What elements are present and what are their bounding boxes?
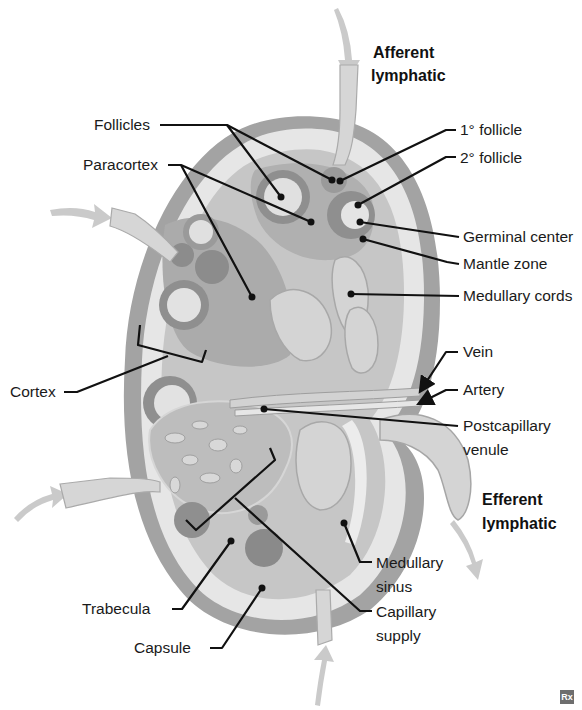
label-capillary-supply-2: supply	[376, 627, 421, 644]
label-medullary-sinus: Medullary	[376, 554, 443, 571]
label-postcapillary-venule-2: venule	[463, 441, 509, 458]
afferent-lymphatic-bottom	[316, 590, 332, 645]
arrow-bottom-icon	[314, 645, 334, 706]
arrow-left-lower-icon	[14, 486, 68, 522]
label-afferent-lymphatic-2: lymphatic	[371, 67, 446, 84]
label-capsule: Capsule	[134, 639, 191, 656]
label-vein: Vein	[463, 343, 493, 360]
label-efferent-lymphatic: Efferent	[482, 491, 543, 508]
medullary-cord-lower	[296, 422, 351, 510]
label-cortex: Cortex	[10, 383, 56, 400]
label-afferent-lymphatic: Afferent	[373, 44, 435, 61]
lymph-node-diagram: Afferent lymphatic Follicles Paracortex …	[0, 0, 582, 710]
arrow-efferent-icon	[450, 520, 483, 580]
label-trabecula: Trabecula	[82, 600, 151, 617]
label-follicles: Follicles	[94, 116, 150, 133]
label-medullary-cords: Medullary cords	[463, 287, 573, 304]
arrow-left-upper-icon	[50, 204, 112, 228]
label-capillary-supply: Capillary	[376, 603, 437, 620]
rx-badge-icon: Rx	[560, 690, 574, 704]
label-paracortex: Paracortex	[83, 156, 158, 173]
label-germinal-center: Germinal center	[463, 228, 573, 245]
label-medullary-sinus-2: sinus	[376, 578, 412, 595]
label-artery: Artery	[463, 381, 505, 398]
label-secondary-follicle: 2° follicle	[460, 149, 522, 166]
label-efferent-lymphatic-2: lymphatic	[482, 515, 557, 532]
label-mantle-zone: Mantle zone	[463, 255, 547, 272]
label-postcapillary-venule: Postcapillary	[463, 417, 551, 434]
label-primary-follicle: 1° follicle	[460, 121, 522, 138]
